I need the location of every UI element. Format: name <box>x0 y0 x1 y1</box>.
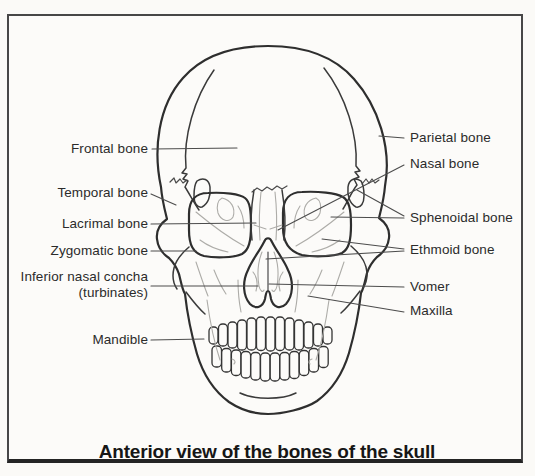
figure-title: Anterior view of the bones of the skull <box>7 441 527 463</box>
label-parietal-bone: Parietal bone <box>410 130 491 146</box>
label-inferior-nasal-concha: Inferior nasal concha (turbinates) <box>21 269 148 301</box>
label-frontal-bone: Frontal bone <box>71 141 148 157</box>
leader-lacrimal-bone <box>151 223 256 224</box>
label-sphenoidal-bone: Sphenoidal bone <box>410 210 513 226</box>
suture-squiggle-left <box>170 178 187 183</box>
teeth-upper <box>209 317 332 351</box>
leader-mandible <box>151 339 204 340</box>
nasal-bridge <box>251 186 287 240</box>
temporal-ridge-left <box>182 70 214 210</box>
label-ethmoid-bone: Ethmoid bone <box>410 242 495 258</box>
figure: Frontal bone Temporal bone Lacrimal bone… <box>0 0 535 476</box>
leader-nasal-bone <box>278 165 404 230</box>
label-temporal-bone: Temporal bone <box>57 185 148 201</box>
leader-frontal-bone <box>152 148 237 149</box>
skull-diagram <box>0 0 535 476</box>
orbit-left <box>189 193 251 258</box>
orbit-detail-right <box>294 198 344 252</box>
label-maxilla: Maxilla <box>410 303 453 319</box>
label-inferior-nasal-concha-line2: (turbinates) <box>21 285 148 301</box>
label-mandible: Mandible <box>92 332 148 348</box>
label-lacrimal-bone: Lacrimal bone <box>62 216 148 232</box>
temporal-ridge-right <box>324 68 360 209</box>
label-vomer: Vomer <box>410 279 450 295</box>
leader-maxilla <box>308 296 404 312</box>
label-zygomatic-bone: Zygomatic bone <box>51 243 148 259</box>
label-nasal-bone: Nasal bone <box>410 156 479 172</box>
orbit-right <box>283 192 351 257</box>
label-inferior-nasal-concha-line1: Inferior nasal concha <box>21 269 148 285</box>
